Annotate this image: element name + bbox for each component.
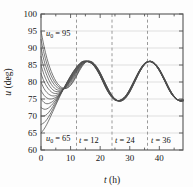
annotation-t12: t = 12 [79,136,99,145]
y-tick-label: 75 [28,94,38,104]
y-tick-label: 70 [28,111,38,121]
y-tick-label: 60 [28,145,38,155]
y-axis-label: u(deg) [3,68,14,95]
annotation-u0-high-value: 95 [62,29,70,38]
y-tick-label: 80 [28,77,38,87]
x-tick-label: 30 [125,153,135,163]
y-axis-label-var: u [3,91,13,96]
annotation-u0-high: u0 = 95 [46,29,70,39]
annotation-t36-eq: = [153,136,162,145]
annotation-t12-value: 12 [90,136,98,145]
annotation-u0-low-value: 65 [62,134,70,143]
y-tick-label: 85 [28,60,38,70]
x-axis-label-unit: (h) [109,175,120,186]
x-axis-label: t(h) [104,175,120,186]
annotation-u0-low-eq: = [53,134,62,143]
annotation-t36: t = 36 [151,136,171,145]
annotation-t12-eq: = [81,136,90,145]
x-tick-label: 10 [66,153,76,163]
y-tick-label: 100 [24,9,38,19]
annotation-t24: t = 24 [115,136,135,145]
x-tick-label: 40 [155,153,165,163]
x-tick-label: 0 [39,153,44,163]
annotation-t36-value: 36 [162,136,170,145]
figure-container: 010203040 6065707580859095100 t(h) u(deg… [0,0,193,187]
annotation-u0-low: u0 = 65 [46,134,70,144]
y-tick-label: 65 [28,128,38,138]
x-tick-label: 20 [96,153,106,163]
y-tick-label: 95 [28,26,38,36]
annotation-t24-value: 24 [126,136,135,145]
annotation-u0-high-eq: = [53,29,62,38]
annotation-t24-eq: = [117,136,126,145]
y-tick-label: 90 [28,43,38,53]
line-chart: 010203040 6065707580859095100 t(h) u(deg… [0,0,193,187]
y-axis-label-unit: (deg) [3,68,14,88]
x-axis-label-var: t [104,175,107,185]
